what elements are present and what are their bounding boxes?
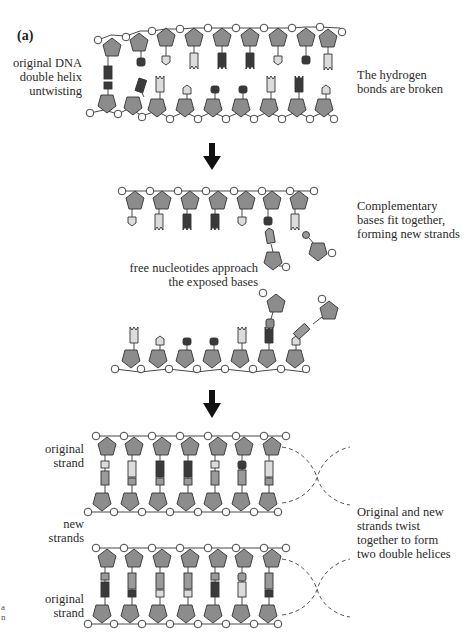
arrow-down-icon: [203, 390, 221, 418]
free-nucleotide-1: [264, 227, 290, 270]
helix-1: [84, 432, 350, 516]
dna-replication-diagram: [0, 0, 470, 638]
free-nucleotide-3: [259, 289, 285, 328]
dashed-twist-line: [282, 559, 350, 617]
helix-2: [84, 544, 350, 628]
step2-strand: [118, 187, 318, 230]
step1-bottom-nucleotides: [86, 76, 338, 123]
dashed-twist-line: [282, 447, 350, 505]
free-nucleotide-4: [293, 295, 338, 339]
step2b-strand: [111, 327, 310, 373]
free-nucleotide-2: [303, 232, 336, 262]
arrow-down-icon: [203, 143, 221, 170]
